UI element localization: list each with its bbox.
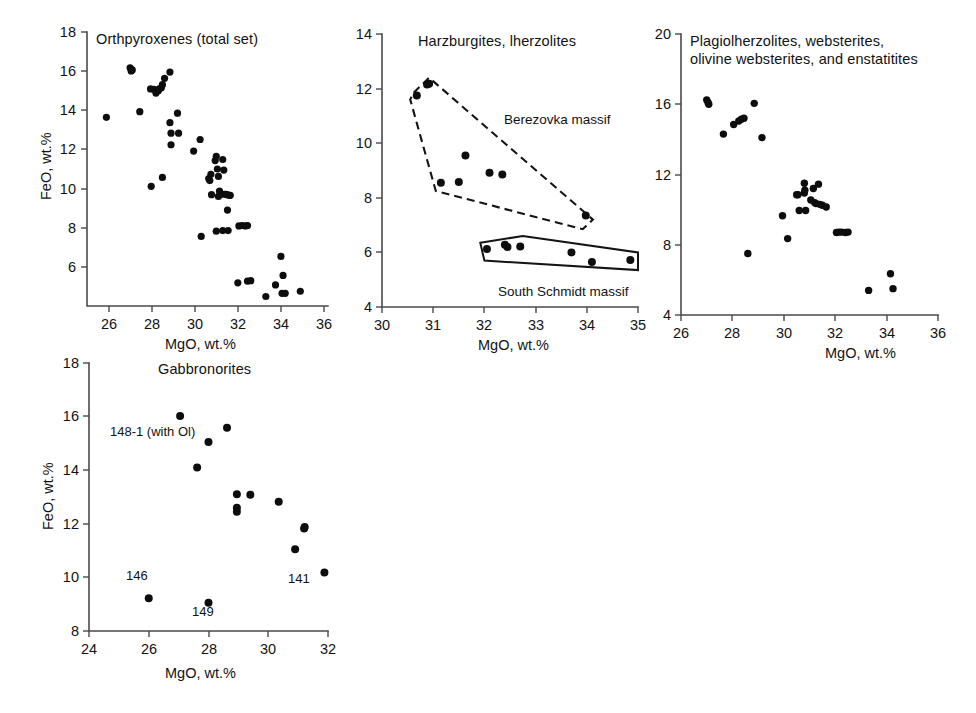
- data-point: [744, 250, 751, 257]
- figure-root: Orthpyroxenes (total set) 18 16 14 12 10…: [0, 0, 976, 713]
- data-point: [224, 207, 231, 214]
- panel-plagiolherzolites-yticks: [675, 34, 681, 315]
- panel-plagiolherzolites-axes: [675, 34, 938, 321]
- data-point: [865, 287, 872, 294]
- data-point: [219, 156, 226, 163]
- panel-plagiolherzolites-ytick-12: 12: [655, 167, 671, 183]
- data-point: [320, 569, 328, 577]
- panel-orthopyroxenes-points: [103, 64, 304, 300]
- panel-plagiolherzolites-xtick-30: 30: [776, 325, 792, 341]
- data-point: [197, 136, 204, 143]
- panel-harzburgites-xtick-34: 34: [579, 317, 595, 333]
- panel-harzburgites-xtick-33: 33: [528, 317, 544, 333]
- panel-harzburgites-title: Harzburgites, lherzolites: [418, 32, 576, 50]
- data-point: [103, 114, 110, 121]
- panel-orthopyroxenes-ytick-16: 16: [60, 63, 76, 79]
- data-point: [277, 253, 284, 260]
- data-point: [301, 523, 309, 531]
- panel-gabbronorites-xtick-28: 28: [201, 641, 217, 657]
- data-point: [275, 498, 283, 506]
- panel-gabbronorites-xtick-30: 30: [260, 641, 276, 657]
- panel-harzburgites-axes: [376, 34, 638, 313]
- panel-plagiolherzolites-points: [703, 96, 897, 294]
- data-point: [784, 235, 791, 242]
- data-point: [129, 66, 136, 73]
- data-point: [801, 187, 808, 194]
- panel-orthopyroxenes-title: Orthpyroxenes (total set): [96, 30, 258, 48]
- data-point: [262, 293, 269, 300]
- field-dashed: [410, 78, 593, 230]
- panel-plagiolherzolites-ytick-20: 20: [655, 26, 671, 42]
- data-point: [437, 179, 445, 187]
- data-point: [796, 207, 803, 214]
- data-point: [425, 80, 433, 88]
- panel-orthopyroxenes-ylabel: FeO, wt.%: [38, 132, 54, 200]
- data-point: [516, 242, 524, 250]
- data-point: [205, 438, 213, 446]
- panel-orthopyroxenes-xtick-36: 36: [316, 316, 332, 332]
- panel-gabbronorites-xticks: [89, 631, 328, 637]
- panel-harzburgites-ytick-10: 10: [356, 135, 372, 151]
- panel-gabbronorites-ylabel: FeO, wt.%: [40, 462, 56, 530]
- data-point: [244, 222, 251, 229]
- data-point: [233, 490, 241, 498]
- panel-gabbronorites-xtick-26: 26: [141, 641, 157, 657]
- data-point: [823, 203, 830, 210]
- panel-orthopyroxenes-ytick-10: 10: [60, 181, 76, 197]
- data-point: [223, 424, 231, 432]
- panel-plagiolherzolites-xtick-26: 26: [673, 325, 689, 341]
- data-point: [213, 153, 220, 160]
- panel-orthopyroxenes-ytick-12: 12: [60, 141, 76, 157]
- data-point: [282, 290, 289, 297]
- data-point: [234, 279, 241, 286]
- panel-harzburgites-xtick-30: 30: [374, 317, 390, 333]
- point-label-149: 149: [192, 604, 214, 619]
- data-point: [758, 134, 765, 141]
- data-point: [779, 212, 786, 219]
- panel-gabbronorites-ytick-16: 16: [63, 408, 79, 424]
- data-point: [220, 166, 227, 173]
- data-point: [246, 491, 254, 499]
- panel-orthopyroxenes-xtick-32: 32: [230, 316, 246, 332]
- panel-harzburgites-xtick-31: 31: [425, 317, 441, 333]
- data-point: [247, 277, 254, 284]
- panel-orthopyroxenes-ytick-18: 18: [60, 24, 76, 40]
- data-point: [136, 108, 143, 115]
- panel-plagiolherzolites-xticks: [681, 315, 938, 321]
- data-point: [198, 233, 205, 240]
- panel-gabbronorites-axes: [83, 363, 328, 637]
- data-point: [193, 464, 201, 472]
- panel-orthopyroxenes-ytick-6: 6: [68, 259, 76, 275]
- panel-orthopyroxenes-xtick-34: 34: [273, 316, 289, 332]
- data-point: [145, 594, 153, 602]
- data-point: [166, 68, 173, 75]
- panel-orthopyroxenes-ytick-14: 14: [60, 102, 76, 118]
- panel-plagiolherzolites-ytick-8: 8: [663, 237, 671, 253]
- panel-plagiolherzolites-title-line2: olivine websterites, and enstatitites: [690, 50, 918, 68]
- data-point: [802, 207, 809, 214]
- panel-harzburgites-plot: [340, 0, 660, 360]
- data-point: [190, 147, 197, 154]
- data-point: [167, 141, 174, 148]
- data-point: [213, 228, 220, 235]
- panel-harzburgites-ytick-4: 4: [364, 299, 372, 315]
- data-point: [159, 174, 166, 181]
- panel-harzburgites-xlabel: MgO, wt.%: [478, 337, 549, 353]
- panel-orthopyroxenes-xtick-28: 28: [144, 316, 160, 332]
- panel-plagiolherzolites-ytick-4: 4: [663, 307, 671, 323]
- data-point: [233, 508, 241, 516]
- panel-orthopyroxenes-axes: [81, 32, 328, 312]
- data-point: [815, 180, 822, 187]
- panel-gabbronorites-xtick-24: 24: [81, 641, 97, 657]
- data-point: [413, 91, 421, 99]
- data-point: [208, 191, 215, 198]
- data-point: [486, 169, 494, 177]
- panel-harzburgites-ytick-12: 12: [356, 81, 372, 97]
- panel-gabbronorites-ytick-18: 18: [63, 355, 79, 371]
- data-point: [794, 191, 801, 198]
- panel-gabbronorites-ytick-8: 8: [71, 623, 79, 639]
- data-point: [720, 130, 727, 137]
- panel-gabbronorites-xlabel: MgO, wt.%: [165, 665, 236, 681]
- panel-plagiolherzolites-title-line1: Plagiolherzolites, websterites,: [690, 32, 884, 50]
- panel-gabbronorites: Gabbronorites 18 16 14 12 10 8 24 26 28 …: [0, 350, 400, 713]
